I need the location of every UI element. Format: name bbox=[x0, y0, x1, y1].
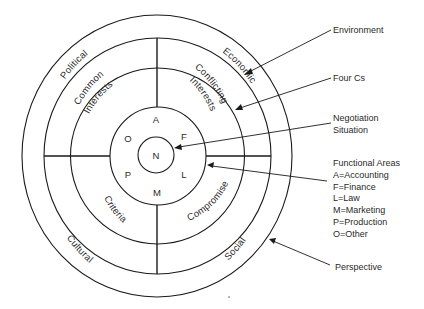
arrowhead-icon bbox=[235, 104, 243, 110]
label-economic: Economic bbox=[221, 45, 259, 85]
callout-four-cs: Four Cs bbox=[333, 73, 366, 83]
legend-title: Functional Areas bbox=[333, 158, 401, 168]
legend-item: M=Marketing bbox=[333, 205, 385, 215]
arrowhead-icon bbox=[207, 162, 214, 168]
functional-areas-arrow bbox=[207, 162, 327, 181]
label-compromise: Compromise bbox=[185, 179, 230, 223]
letter-other: O bbox=[124, 133, 131, 144]
label-social: Social bbox=[222, 235, 248, 262]
center-label: N bbox=[153, 150, 160, 161]
label-political: Political bbox=[58, 47, 90, 80]
callout-perspective: Perspective bbox=[335, 262, 382, 272]
legend-item: L=Law bbox=[333, 193, 360, 203]
legend-item: O=Other bbox=[333, 229, 368, 239]
legend-item: A=Accounting bbox=[333, 170, 389, 180]
letter-marketing: M bbox=[153, 187, 161, 198]
letter-production: P bbox=[125, 169, 131, 180]
legend-item: P=Production bbox=[333, 217, 387, 227]
callout-negotiation-line2: Situation bbox=[333, 125, 368, 135]
functional-areas-legend: Functional Areas A=Accounting F=Finance … bbox=[333, 158, 401, 239]
negotiation-situation-arrow bbox=[174, 123, 331, 150]
scan-speck bbox=[228, 296, 230, 298]
legend-item: F=Finance bbox=[333, 182, 376, 192]
letter-accounting: A bbox=[153, 114, 160, 125]
letter-law: L bbox=[181, 169, 186, 180]
perspective-arrow bbox=[269, 238, 330, 265]
arrowhead-icon bbox=[269, 238, 276, 244]
arrowhead-icon bbox=[174, 144, 182, 150]
label-cultural: Cultural bbox=[65, 232, 96, 264]
environment-arrow bbox=[244, 30, 331, 75]
label-criteria: Criteria bbox=[102, 194, 130, 225]
letter-finance: F bbox=[181, 131, 187, 142]
callout-environment: Environment bbox=[333, 25, 384, 35]
callout-negotiation-line1: Negotiation bbox=[333, 113, 379, 123]
negotiation-diagram: N A F L M P O Common Interests Conflicti… bbox=[0, 0, 424, 309]
